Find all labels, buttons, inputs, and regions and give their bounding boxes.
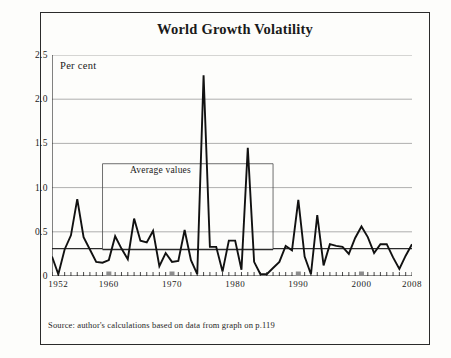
x-axis-ticks: [52, 272, 412, 277]
x-tick-label: 1970: [162, 279, 182, 289]
x-tick-label: 1960: [99, 279, 119, 289]
gridlines: [52, 55, 412, 232]
source-note: Source: author's calculations based on d…: [48, 320, 275, 330]
axis-lines: [52, 55, 412, 276]
y-tick-label: 1.5: [18, 138, 48, 148]
y-tick-label: 0: [18, 271, 48, 281]
y-axis-tick-labels: 00.51.01.52.02.5: [14, 55, 48, 276]
y-tick-label: 2.0: [18, 94, 48, 104]
chart-canvas: [52, 55, 412, 276]
figure-root: World Growth Volatility Per cent 00.51.0…: [0, 0, 451, 358]
y-tick-label: 0.5: [18, 227, 48, 237]
chart-title: World Growth Volatility: [40, 21, 430, 38]
average-values-annotation: Average values: [128, 165, 193, 175]
y-tick-label: 1.0: [18, 183, 48, 193]
x-tick-label: 2000: [351, 279, 371, 289]
y-tick-label: 2.5: [18, 50, 48, 60]
volatility-line-series: [52, 75, 412, 274]
average-values-line: [52, 249, 412, 250]
average-values-bracket: [103, 164, 274, 250]
x-tick-label: 1980: [225, 279, 245, 289]
x-tick-label: 1952: [48, 279, 68, 289]
x-tick-label: 1990: [288, 279, 308, 289]
x-tick-label: 2008: [402, 279, 422, 289]
x-axis-tick-labels: 1952196019701980199020002008: [52, 279, 412, 295]
plot-area: [52, 55, 412, 276]
